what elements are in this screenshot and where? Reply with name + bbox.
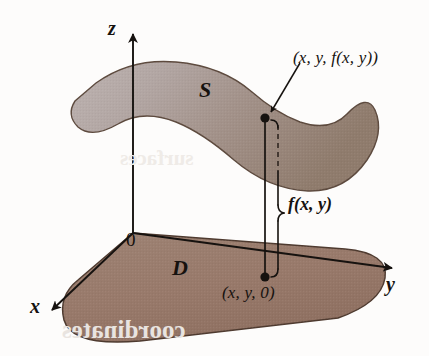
x-axis-label: x	[30, 296, 40, 316]
domain-point-label: (x, y, 0)	[222, 284, 275, 301]
brace-lower-elbow	[278, 213, 284, 221]
surface-point-dot	[260, 113, 269, 122]
domain-point-dot	[260, 272, 269, 281]
page-bleedthrough-middle: surfaces	[120, 146, 193, 171]
brace-upper-elbow	[278, 205, 284, 213]
height-measure-label: f(x, y)	[288, 195, 332, 213]
surface-point-leader	[271, 63, 300, 112]
page-bleedthrough-bottom: coordinates	[62, 316, 186, 344]
leader-arrow	[271, 63, 300, 112]
surface-texture	[71, 61, 378, 191]
surface-label: S	[199, 79, 211, 101]
origin-label: 0	[126, 230, 136, 249]
domain-label: D	[172, 257, 188, 279]
surface-point-label: (x, y, f(x, y))	[293, 49, 378, 66]
y-axis-label: y	[386, 274, 395, 294]
surface-region	[71, 61, 378, 191]
surface-over-domain-figure: z x y 0 S D (x, y, f(x, y)) (x, y, 0) f(…	[0, 0, 429, 356]
z-axis-label: z	[108, 18, 116, 38]
